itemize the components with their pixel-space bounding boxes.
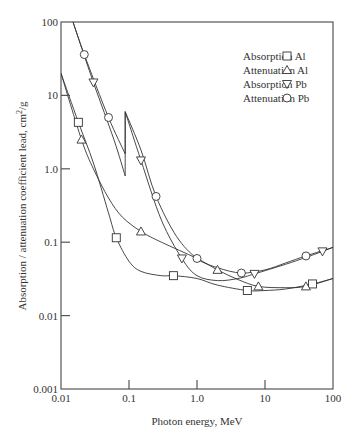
marker-absorption-al (309, 280, 317, 288)
marker-attenuation-al (136, 227, 145, 235)
legend-symbol-attenuation-pb (283, 94, 291, 102)
marker-attenuation-pb (302, 252, 310, 260)
marker-absorption-pb (177, 255, 186, 263)
y-tick-label: 1.0 (44, 163, 58, 175)
x-tick-label: 10 (260, 392, 272, 404)
x-tick-label: 0.1 (122, 392, 136, 404)
legend-symbol-absorption-al (283, 52, 291, 60)
y-tick-label: 100 (42, 16, 59, 28)
y-tick-label: 0.001 (33, 383, 58, 395)
marker-absorption-al (112, 234, 120, 242)
y-axis-title: Absorption / attenuation coefficient lea… (15, 101, 28, 311)
marker-absorption-al (74, 118, 82, 126)
marker-absorption-pb (89, 79, 98, 87)
chart-canvas: 0.010.11.010100 100101.00.10.010.001 Abs… (0, 0, 358, 442)
marker-attenuation-pb (193, 254, 201, 262)
marker-attenuation-pb (80, 51, 88, 59)
marker-absorption-pb (250, 270, 259, 278)
y-axis-title-end: /g (16, 101, 28, 110)
x-axis-ticks: 0.010.11.010100 (51, 380, 341, 404)
y-tick-label: 10 (47, 89, 59, 101)
marker-attenuation-pb (237, 269, 245, 277)
legend: Absorption Al Attenuation Al Absorption … (243, 50, 310, 104)
data-curves (61, 22, 333, 291)
y-tick-label: 0.01 (39, 310, 58, 322)
marker-attenuation-pb (152, 192, 160, 200)
marker-absorption-al (243, 286, 251, 294)
marker-absorption-al (169, 272, 177, 280)
legend-label-absorption-al: Absorption Al (243, 50, 306, 62)
legend-label-absorption-pb: Absorption Pb (243, 78, 307, 90)
y-tick-label: 0.1 (44, 236, 58, 248)
x-tick-label: 100 (325, 392, 342, 404)
x-axis-title: Photon energy, MeV (151, 415, 242, 427)
marker-attenuation-pb (105, 113, 113, 121)
legend-label-attenuation-pb: Attenuation Pb (243, 92, 310, 104)
legend-label-attenuation-al: Attenuation Al (243, 64, 308, 76)
x-tick-label: 1.0 (190, 392, 204, 404)
y-axis-ticks: 100101.00.10.010.001 (33, 16, 70, 395)
y-axis-title-main: Absorption / attenuation coefficient lea… (16, 114, 28, 311)
